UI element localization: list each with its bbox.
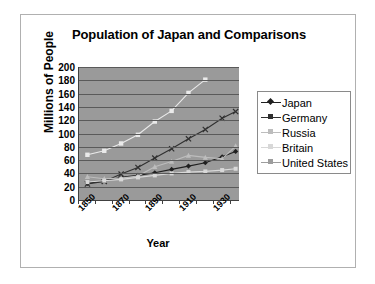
data-point [203, 127, 208, 132]
y-tick-label: 160 [35, 90, 75, 99]
data-point [136, 175, 140, 179]
legend-marker-icon [260, 142, 282, 153]
gridline [79, 173, 239, 174]
legend-label: Germany [282, 112, 327, 124]
data-point [186, 163, 191, 168]
legend-marker-icon [260, 157, 282, 168]
gridline [79, 107, 239, 108]
gridline [79, 134, 239, 135]
chart-legend: JapanGermanyRussiaBritainUnited States [257, 91, 351, 174]
series-britain [85, 167, 237, 184]
legend-item-united-states[interactable]: United States [260, 155, 348, 170]
y-axis-tick-labels: 200180160140120100806040200 [33, 61, 75, 206]
legend-item-japan[interactable]: Japan [260, 95, 348, 110]
chart-frame: Population of Japan and Comparisons Mill… [20, 14, 356, 268]
data-point [135, 165, 140, 170]
legend-item-britain[interactable]: Britain [260, 140, 348, 155]
gridline [79, 160, 239, 161]
legend-marker-icon [260, 97, 282, 108]
legend-marker-icon [260, 112, 282, 123]
legend-point [268, 144, 273, 149]
legend-point [268, 129, 273, 134]
legend-point [267, 98, 274, 105]
data-point [85, 180, 89, 184]
x-axis-title: Year [78, 237, 238, 249]
data-point [233, 149, 238, 154]
data-point [85, 153, 89, 157]
y-tick-label: 120 [35, 116, 75, 125]
y-tick-label: 40 [35, 169, 75, 178]
data-point [234, 167, 238, 171]
y-tick-label: 0 [35, 196, 75, 205]
plot-area [78, 67, 239, 201]
y-tick-label: 20 [35, 183, 75, 192]
chart-title: Population of Japan and Comparisons [21, 27, 357, 42]
legend-point [268, 159, 273, 164]
y-tick-label: 80 [35, 143, 75, 152]
gridline [79, 187, 239, 188]
data-point [169, 167, 174, 172]
y-tick-label: 60 [35, 156, 75, 165]
series-line [87, 169, 235, 182]
gridline [79, 147, 239, 148]
y-tick-label: 140 [35, 103, 75, 112]
data-point [220, 168, 224, 172]
gridline [79, 120, 239, 121]
legend-label: Russia [282, 127, 316, 139]
data-point [102, 179, 106, 183]
legend-label: Japan [282, 97, 312, 109]
legend-item-germany[interactable]: Germany [260, 110, 348, 125]
series-united-states [85, 77, 207, 157]
legend-label: Britain [282, 142, 313, 154]
legend-marker-icon [260, 127, 282, 138]
legend-point [268, 114, 273, 119]
gridline [79, 94, 239, 95]
data-point [186, 136, 191, 141]
legend-item-russia[interactable]: Russia [260, 125, 348, 140]
data-point [233, 109, 238, 114]
data-point [169, 109, 173, 113]
data-point [102, 149, 106, 153]
legend-label: United States [282, 157, 348, 169]
y-tick-label: 200 [35, 63, 75, 72]
y-tick-label: 180 [35, 76, 75, 85]
gridline [79, 80, 239, 81]
y-tick-label: 100 [35, 130, 75, 139]
gridline [79, 67, 239, 68]
data-point [119, 177, 123, 181]
data-point [119, 141, 123, 145]
